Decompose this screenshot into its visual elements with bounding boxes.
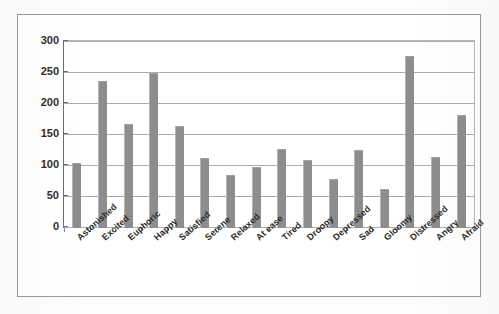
y-axis-tick-label: 150	[19, 128, 59, 139]
y-axis-tick-mark	[63, 102, 68, 103]
y-axis-tick-label: 300	[19, 35, 59, 46]
x-axis-label-slot: Relaxed	[218, 233, 244, 295]
bar	[457, 115, 466, 228]
x-axis-category-labels: AstonishedExcitedEuphoricHappySatisfiedS…	[64, 233, 474, 295]
y-axis-tick-label: 100	[19, 159, 59, 170]
x-axis-label-slot: Angry	[423, 233, 449, 295]
x-axis-label-slot: Serene	[192, 233, 218, 295]
x-axis-label-slot: At ease	[243, 233, 269, 295]
y-axis-tick-label: 250	[19, 66, 59, 77]
bar-slot	[320, 41, 346, 228]
bar	[303, 160, 312, 228]
y-axis-tick-label: 50	[19, 190, 59, 201]
x-axis-label-slot: Happy	[141, 233, 167, 295]
bar-slot	[243, 41, 269, 228]
bar-slot	[346, 41, 372, 228]
bar-slot	[64, 41, 90, 228]
x-axis-label-slot: Astonished	[64, 233, 90, 295]
y-axis-tick-mark	[63, 40, 68, 41]
bar-slot	[141, 41, 167, 228]
bar-slot	[192, 41, 218, 228]
bar-slot	[448, 41, 474, 228]
bar-slot	[372, 41, 398, 228]
y-axis-tick-labels: 050100150200250300	[15, 40, 59, 228]
x-axis-label-slot: Droopy	[295, 233, 321, 295]
bar-slot	[295, 41, 321, 228]
bar-slot	[397, 41, 423, 228]
bar	[124, 124, 133, 228]
y-axis-tick-mark	[63, 133, 68, 134]
x-axis-label-slot: Sad	[346, 233, 372, 295]
bar	[175, 126, 184, 228]
x-axis-label-slot: Gloomy	[372, 233, 398, 295]
y-axis-tick-label: 0	[19, 221, 59, 232]
y-axis-tick-mark	[63, 226, 68, 227]
x-axis-label-slot: Tired	[269, 233, 295, 295]
y-axis-tick-mark	[63, 71, 68, 72]
x-axis-label-slot: Depressed	[320, 233, 346, 295]
bar	[72, 163, 81, 228]
x-axis-label-slot: Euphoric	[115, 233, 141, 295]
y-axis-tick-label: 200	[19, 97, 59, 108]
bar-slot	[423, 41, 449, 228]
x-axis-label-slot: Afraid	[448, 233, 474, 295]
bar-slot	[115, 41, 141, 228]
x-axis-label-slot: Distressed	[397, 233, 423, 295]
bar-slot	[218, 41, 244, 228]
y-axis-tick-mark	[63, 164, 68, 165]
bar-slot	[90, 41, 116, 228]
bar	[380, 189, 389, 228]
bar	[149, 73, 158, 228]
bar-series	[64, 41, 474, 228]
chart-figure: 050100150200250300 AstonishedExcitedEuph…	[0, 0, 499, 314]
x-axis-label-slot: Excited	[90, 233, 116, 295]
x-axis-label-slot: Satisfied	[167, 233, 193, 295]
bar-slot	[269, 41, 295, 228]
bar	[405, 56, 414, 228]
y-axis-tick-mark	[63, 195, 68, 196]
bar-slot	[167, 41, 193, 228]
